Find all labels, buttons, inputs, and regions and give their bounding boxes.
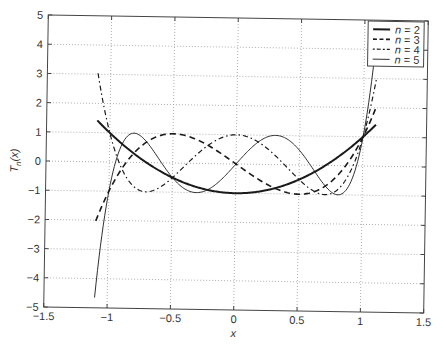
grid-line-y xyxy=(45,219,425,225)
y-tick-label: −2 xyxy=(27,213,40,225)
y-tick-labels: −5−4−3−2−1012345 xyxy=(26,9,43,313)
y-axis-label-arg: (x) xyxy=(8,148,20,161)
curve-n5 xyxy=(95,26,378,302)
grid-line-x xyxy=(297,19,302,311)
x-tick-label: 1 xyxy=(357,315,363,327)
chebyshev-chart: −1.5−1−0.500.511.5 −5−4−3−2−1012345 x Tn… xyxy=(0,0,446,347)
y-tick-label: −5 xyxy=(26,301,39,313)
x-tick-label: −0.5 xyxy=(159,312,181,324)
y-tick-label: 4 xyxy=(37,38,43,50)
y-axis-label: Tn(x) xyxy=(8,148,23,173)
svg-text:Tn(x): Tn(x) xyxy=(8,148,23,173)
x-tick-label: −1 xyxy=(101,311,114,323)
legend: n = 2n = 3n = 4n = 5 xyxy=(368,21,425,67)
x-tick-label: 0 xyxy=(230,313,236,325)
legend-label: n = 5 xyxy=(395,53,420,65)
y-tick-label: 2 xyxy=(36,96,42,108)
y-tick-label: −3 xyxy=(27,242,40,254)
y-tick-label: −1 xyxy=(28,184,41,196)
x-tick-label: 0.5 xyxy=(289,314,304,326)
x-axis-label: x xyxy=(229,327,236,339)
y-tick-label: 0 xyxy=(35,155,41,167)
y-tick-label: 5 xyxy=(37,9,43,21)
curves xyxy=(95,26,378,302)
x-tick-label: 1.5 xyxy=(416,316,431,328)
curve-n2 xyxy=(96,120,376,195)
y-tick-label: 3 xyxy=(36,67,42,79)
y-tick-label: −4 xyxy=(27,272,40,284)
plot-svg: −1.5−1−0.500.511.5 −5−4−3−2−1012345 x Tn… xyxy=(0,0,446,347)
y-tick-label: 1 xyxy=(35,126,41,138)
